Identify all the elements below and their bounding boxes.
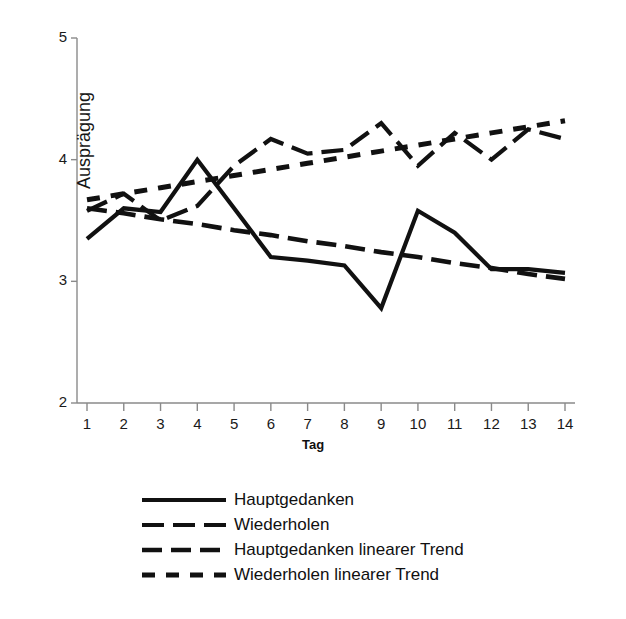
y-tick-label: 3 [43, 271, 67, 288]
x-tick-label: 4 [181, 415, 213, 432]
legend-item[interactable]: Wiederholen [140, 512, 560, 537]
x-tick-label: 8 [328, 415, 360, 432]
series-line-wiederholen [87, 123, 565, 220]
x-tick-label: 13 [512, 415, 544, 432]
y-axis-title: Ausprägung [74, 51, 95, 231]
chart-legend: HauptgedankenWiederholenHauptgedanken li… [140, 487, 560, 587]
legend-swatch-icon [140, 493, 228, 507]
y-tick-label: 2 [43, 393, 67, 410]
x-tick-label: 2 [108, 415, 140, 432]
y-tick-label: 4 [43, 150, 67, 167]
legend-label: Wiederholen linearer Trend [234, 566, 439, 583]
x-tick-label: 9 [365, 415, 397, 432]
x-tick-label: 14 [549, 415, 581, 432]
legend-label: Wiederholen [234, 516, 329, 533]
x-axis-title: Tag [0, 437, 626, 452]
legend-label: Hauptgedanken linearer Trend [234, 541, 464, 558]
legend-label: Hauptgedanken [234, 491, 354, 508]
x-tick-label: 12 [475, 415, 507, 432]
legend-swatch-icon [140, 568, 228, 582]
legend-swatch-icon [140, 543, 228, 557]
x-tick-label: 5 [218, 415, 250, 432]
legend-item[interactable]: Hauptgedanken linearer Trend [140, 537, 560, 562]
x-tick-label: 10 [402, 415, 434, 432]
x-tick-label: 11 [439, 415, 471, 432]
legend-item[interactable]: Wiederholen linearer Trend [140, 562, 560, 587]
x-tick-label: 7 [292, 415, 324, 432]
legend-item[interactable]: Hauptgedanken [140, 487, 560, 512]
y-tick-label: 5 [43, 28, 67, 45]
x-axis-ticks [87, 403, 565, 411]
series-line-hauptgedanken-trend [87, 208, 565, 279]
x-tick-label: 6 [255, 415, 287, 432]
series-line-hauptgedanken [87, 160, 565, 308]
x-tick-label: 1 [71, 415, 103, 432]
chart-figure: Ausprägung 5432 1234567891011121314 Tag … [0, 0, 626, 619]
x-tick-label: 3 [145, 415, 177, 432]
legend-swatch-icon [140, 518, 228, 532]
